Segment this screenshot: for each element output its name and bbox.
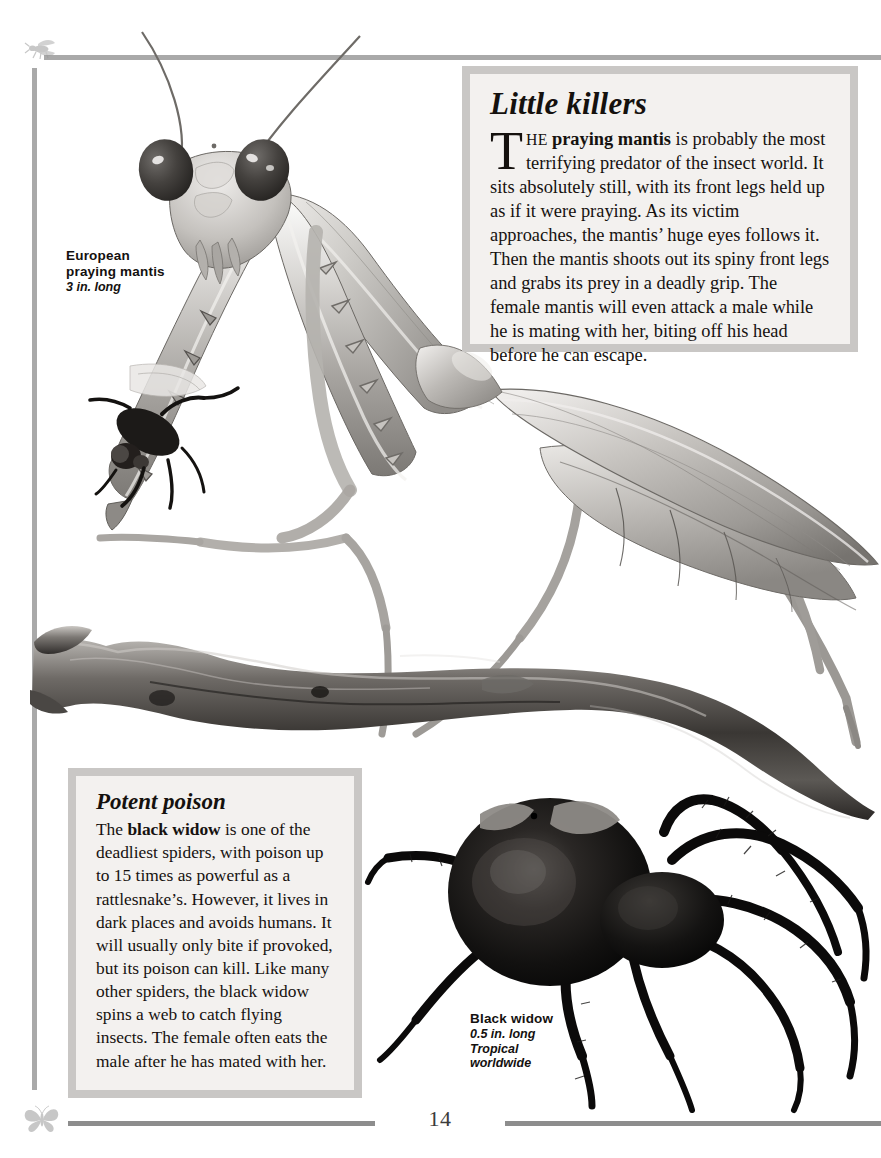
panel-title-potent-poison: Potent poison bbox=[96, 790, 334, 814]
black-widow-illustration bbox=[372, 772, 872, 1112]
caption-spider-name: Black widow bbox=[470, 1011, 553, 1027]
caption-mantis-size: 3 in. long bbox=[66, 280, 165, 295]
poison-body-text: is one of the deadliest spiders, with po… bbox=[96, 819, 333, 1070]
panel-body-potent-poison: The black widow is one of the deadliest … bbox=[96, 818, 334, 1073]
poison-body-lead: The bbox=[96, 819, 127, 839]
fly-prey-illustration bbox=[86, 356, 306, 526]
panel-body-little-killers: THE praying mantis is probably the most … bbox=[490, 127, 830, 367]
dropcap-t: T bbox=[490, 127, 525, 172]
bottom-left-rule bbox=[68, 1121, 375, 1126]
lead-smallcaps: HE bbox=[526, 131, 552, 148]
caption-spider-size: 0.5 in. long bbox=[470, 1027, 553, 1042]
caption-spider-range-line1: Tropical bbox=[470, 1042, 553, 1057]
caption-mantis-name-line2: praying mantis bbox=[66, 264, 165, 280]
panel-potent-poison: Potent poison The black widow is one of … bbox=[68, 768, 362, 1098]
panel-title-little-killers: Little killers bbox=[490, 88, 830, 121]
butterfly-icon bbox=[22, 1104, 62, 1134]
caption-spider-range-line2: worldwide bbox=[470, 1056, 553, 1071]
panel-body-text: is probably the most terrifying predator… bbox=[490, 129, 829, 365]
panel-little-killers: Little killers THE praying mantis is pro… bbox=[462, 66, 858, 352]
poison-bold-term: black widow bbox=[127, 819, 220, 839]
book-page: 14 bbox=[0, 0, 881, 1158]
caption-european-praying-mantis: European praying mantis 3 in. long bbox=[66, 248, 165, 295]
bottom-right-rule bbox=[505, 1121, 881, 1126]
caption-mantis-name-line1: European bbox=[66, 248, 165, 264]
caption-black-widow: Black widow 0.5 in. long Tropical worldw… bbox=[470, 1011, 553, 1071]
lead-bold-term: praying mantis bbox=[552, 129, 671, 149]
